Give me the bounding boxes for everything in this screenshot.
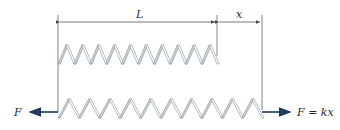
right-force: F = kx: [262, 106, 335, 119]
reference-lines: [58, 15, 262, 112]
bottom-spring-stretched: [58, 99, 264, 118]
top-spring-unstretched: [58, 45, 219, 64]
label-left-force: F: [13, 106, 22, 119]
spring-diagram: L x F F = kx: [0, 0, 340, 130]
dimension-L: L: [60, 8, 215, 22]
left-force: F: [13, 106, 58, 119]
label-right-force: F = kx: [296, 106, 335, 119]
dimension-x: x: [219, 8, 260, 22]
label-L: L: [135, 8, 143, 21]
label-x: x: [236, 8, 243, 21]
